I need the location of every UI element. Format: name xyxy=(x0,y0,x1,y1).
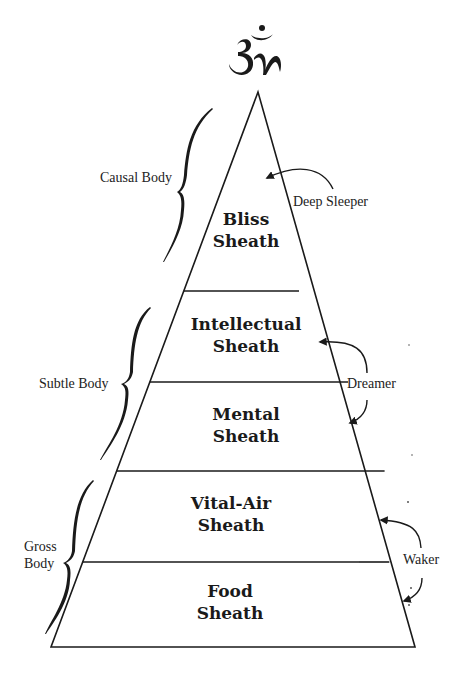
arrow-deep-sleeper xyxy=(267,169,333,189)
bliss-line2: Sheath xyxy=(213,230,280,252)
food-line1: Food xyxy=(197,580,264,602)
bliss-line1: Bliss xyxy=(213,208,280,230)
causal-body-label: Causal Body xyxy=(100,169,172,186)
sheath-intellectual-label: Intellectual Sheath xyxy=(191,313,302,357)
deep-sleeper-label: Deep Sleeper xyxy=(293,193,368,210)
om-symbol-icon xyxy=(225,20,285,82)
sheath-vital-air-label: Vital-Air Sheath xyxy=(191,492,271,536)
vital-air-line1: Vital-Air xyxy=(191,492,271,514)
mental-line2: Sheath xyxy=(212,425,279,447)
gross-line2: Body xyxy=(24,555,57,572)
gross-body-label: Gross Body xyxy=(24,538,57,572)
sheath-mental-label: Mental Sheath xyxy=(212,403,279,447)
subtle-body-label: Subtle Body xyxy=(39,375,109,392)
sheath-bliss-label: Bliss Sheath xyxy=(213,208,280,252)
gross-line1: Gross xyxy=(24,538,57,555)
dreamer-label: Dreamer xyxy=(347,375,396,392)
intellectual-line2: Sheath xyxy=(191,335,302,357)
sheath-food-label: Food Sheath xyxy=(197,580,264,624)
waker-label: Waker xyxy=(403,551,439,568)
intellectual-line1: Intellectual xyxy=(191,313,302,335)
vital-air-line2: Sheath xyxy=(191,514,271,536)
mental-line1: Mental xyxy=(212,403,279,425)
food-line2: Sheath xyxy=(197,602,264,624)
